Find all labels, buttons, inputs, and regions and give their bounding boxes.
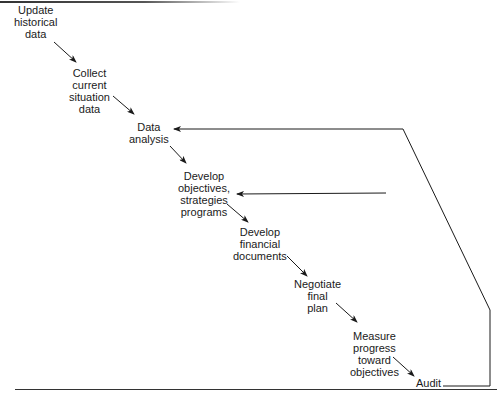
feedback-branch-to-objectives <box>237 193 386 194</box>
arrow-measure-to-audit <box>393 357 414 376</box>
arrow-objectives-to-financial <box>227 204 248 222</box>
arrow-negotiate-to-measure <box>336 303 357 322</box>
diagram-connectors <box>0 0 503 409</box>
arrow-update-to-collect <box>54 42 76 62</box>
bottom-rule <box>15 389 497 390</box>
arrow-collect-to-analysis <box>113 96 134 114</box>
feedback-loop-audit-to-analysis <box>174 129 490 386</box>
arrow-analysis-to-objectives <box>170 146 186 163</box>
arrow-financial-to-negotiate <box>287 256 307 276</box>
